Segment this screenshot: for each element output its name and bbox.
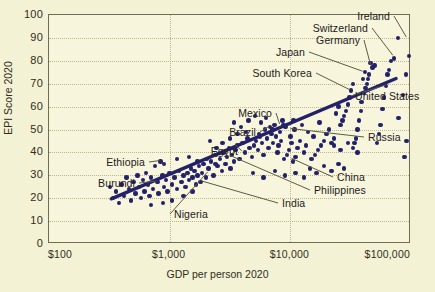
data-point	[162, 162, 166, 166]
data-point	[396, 116, 400, 120]
data-point	[293, 171, 297, 175]
annotation-label: India	[282, 197, 305, 209]
data-point	[197, 164, 201, 168]
data-point	[298, 139, 302, 143]
data-point	[142, 189, 146, 193]
data-point	[146, 182, 150, 186]
data-point	[259, 120, 263, 124]
data-point	[183, 185, 187, 189]
data-point	[361, 77, 365, 81]
data-point	[250, 155, 254, 159]
data-point	[155, 180, 159, 184]
data-point	[351, 146, 355, 150]
data-point	[195, 159, 199, 163]
data-point	[332, 143, 336, 147]
data-point	[342, 166, 346, 170]
data-point	[355, 150, 359, 154]
data-point	[340, 118, 344, 122]
data-point	[220, 169, 224, 173]
data-point	[309, 157, 313, 161]
y-tick-label: 10	[3, 214, 43, 226]
y-tick-label: 90	[3, 31, 43, 43]
x-tick-label: $100,000	[365, 248, 410, 260]
data-point	[317, 120, 321, 124]
data-point	[378, 123, 382, 127]
data-point	[314, 171, 318, 175]
data-point	[324, 132, 328, 136]
data-point	[274, 134, 278, 138]
gridline-horizontal	[49, 61, 409, 62]
y-tick-label: 60	[3, 100, 43, 112]
annotation-label: South Korea	[253, 67, 312, 79]
data-point	[206, 166, 210, 170]
data-point	[149, 203, 153, 207]
annotation-label: Brazil	[229, 126, 256, 138]
data-point	[384, 84, 388, 88]
y-tick-label: 0	[3, 237, 43, 249]
data-point	[346, 102, 350, 106]
data-point	[380, 107, 384, 111]
data-point	[261, 153, 265, 157]
data-point	[213, 162, 217, 166]
data-point	[295, 146, 299, 150]
gridline-horizontal	[49, 198, 409, 199]
data-point	[151, 187, 155, 191]
data-point	[181, 173, 185, 177]
data-point	[385, 72, 389, 76]
data-point	[404, 139, 408, 143]
data-point	[189, 166, 193, 170]
data-point	[117, 201, 121, 205]
data-point	[389, 59, 393, 63]
data-point	[232, 120, 236, 124]
data-point	[164, 178, 168, 182]
data-point	[181, 194, 185, 198]
data-point	[355, 127, 359, 131]
data-point	[283, 173, 287, 177]
y-tick-label: 70	[3, 77, 43, 89]
data-point	[285, 153, 289, 157]
data-point	[149, 175, 153, 179]
data-point	[336, 104, 340, 108]
data-point	[404, 72, 408, 76]
x-tick-label: $1,000	[152, 248, 185, 260]
annotation-label: Germany	[316, 34, 360, 46]
data-point	[185, 171, 189, 175]
data-point	[240, 141, 244, 145]
data-point	[302, 150, 306, 154]
data-point	[172, 175, 176, 179]
data-point	[270, 127, 274, 131]
data-point	[137, 185, 141, 189]
data-point	[357, 118, 361, 122]
data-point	[329, 169, 333, 173]
x-tick-label: $10,000	[270, 248, 309, 260]
data-point	[133, 191, 137, 195]
data-point	[187, 178, 191, 182]
data-point	[228, 166, 232, 170]
data-point	[271, 141, 275, 145]
data-point	[346, 141, 350, 145]
data-point	[407, 54, 411, 58]
annotation-label: United States	[355, 90, 419, 102]
annotation-label: Ireland	[357, 10, 390, 22]
data-point	[308, 166, 312, 170]
data-point	[304, 143, 308, 147]
data-point	[289, 141, 293, 145]
data-point	[396, 36, 400, 40]
data-point	[266, 146, 270, 150]
data-point	[338, 123, 342, 127]
y-tick-label: 40	[3, 145, 43, 157]
data-point	[175, 187, 179, 191]
data-point	[273, 169, 277, 173]
data-point	[311, 134, 315, 138]
data-point	[190, 175, 194, 179]
data-point	[281, 123, 285, 127]
data-point	[165, 189, 169, 193]
annotation-label: Egypt	[211, 145, 238, 157]
data-point	[153, 164, 157, 168]
y-tick-label: 80	[3, 54, 43, 66]
data-point	[359, 109, 363, 113]
data-point	[263, 127, 267, 131]
y-tick-label: 50	[3, 123, 43, 135]
data-point	[160, 173, 164, 177]
data-point	[218, 157, 222, 161]
